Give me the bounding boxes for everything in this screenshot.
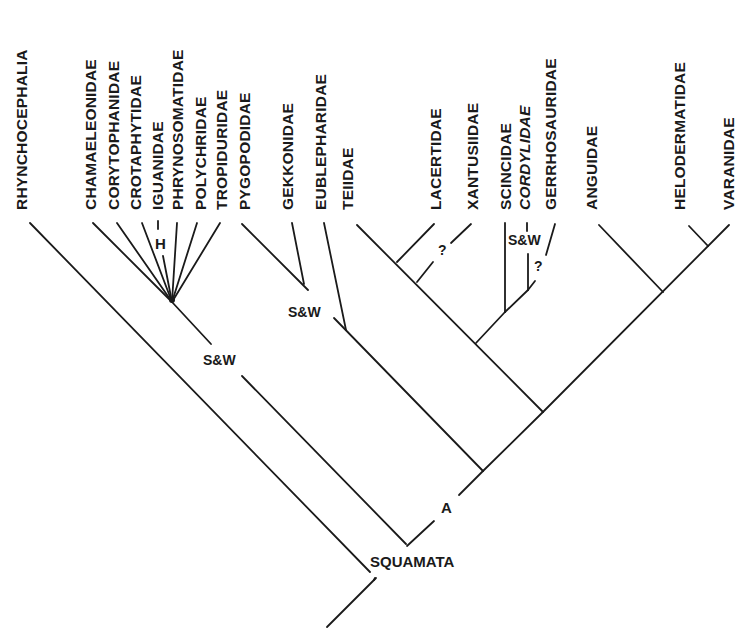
taxon-anguidae: ANGUIDAE bbox=[584, 126, 600, 210]
root-stem bbox=[327, 578, 376, 627]
branch-iguania-upper bbox=[172, 302, 211, 344]
taxon-phrynosomatidae: PHRYNOSOMATIDAE bbox=[170, 49, 186, 210]
annotation-sw-iguania: S&W bbox=[203, 353, 236, 367]
annotation-iguanidae-h: H bbox=[155, 236, 166, 251]
taxon-gerrhosauridae: GERRHOSAURIDAE bbox=[543, 58, 559, 210]
taxon-iguanidae: IGUANIDAE bbox=[150, 121, 166, 210]
taxon-helodermatidae: HELODERMATIDAE bbox=[672, 62, 688, 210]
taxon-polychridae: POLYCHRIDAE bbox=[193, 96, 209, 210]
taxon-lacertidae: LACERTIDAE bbox=[428, 108, 444, 210]
iguania-polytomy-node bbox=[169, 297, 175, 303]
taxon-varanidae: VARANIDAE bbox=[721, 117, 737, 210]
taxon-chamaeleonidae: CHAMAELEONIDAE bbox=[83, 59, 99, 210]
annotation-sw-scincomorpha: S&W bbox=[508, 233, 541, 247]
branch-xantusiidae-upper bbox=[451, 224, 471, 243]
branch-xantusiidae-lower bbox=[417, 262, 433, 282]
taxon-eublepharidae: EUBLEPHARIDAE bbox=[313, 74, 329, 210]
branch-gekkota-stem bbox=[334, 318, 483, 471]
branch-gerrhosauridae-upper bbox=[546, 224, 555, 255]
taxon-xantusiidae: XANTUSIIDAE bbox=[465, 103, 481, 210]
branch-scincomorph-stem bbox=[476, 312, 505, 343]
branch-eublepharidae bbox=[324, 223, 346, 330]
branch-iguania-lower bbox=[242, 376, 406, 544]
taxon-teiidae: TEIIDAE bbox=[340, 147, 356, 210]
taxon-crotaphytidae: CROTAPHYTIDAE bbox=[128, 75, 144, 210]
node-label-a: A bbox=[441, 500, 452, 515]
branch-lacertidae bbox=[397, 224, 434, 262]
branch-scleroglossa-to-autarchoglossa bbox=[483, 412, 543, 471]
taxon-corytophanidae: CORYTOPHANIDAE bbox=[106, 61, 122, 210]
annotation-question-gerrhosauridae: ? bbox=[534, 259, 543, 273]
branch-anguidae bbox=[599, 225, 663, 292]
branch-a-to-scleroglossa bbox=[459, 471, 483, 495]
branch-tropiduridae bbox=[172, 223, 220, 302]
branch-gerrhosauridae-lower bbox=[528, 281, 535, 290]
taxon-rhynchocephalia: RHYNCHOCEPHALIA bbox=[14, 49, 30, 210]
taxon-gekkonidae: GEKKONIDAE bbox=[280, 103, 296, 210]
branch-anguimorpha bbox=[543, 225, 729, 412]
taxon-tropiduridae: TROPIDURIDAE bbox=[214, 90, 230, 210]
branch-squamata-to-a-lower bbox=[407, 521, 434, 546]
branch-helodermatidae bbox=[689, 226, 708, 246]
taxon-pygopodidae: PYGOPODIDAE bbox=[237, 92, 253, 210]
taxon-cordylidae: CORDYLIDAE bbox=[517, 106, 533, 210]
taxon-scincidae: SCINCIDAE bbox=[498, 123, 514, 210]
branch-teiidae bbox=[357, 225, 543, 412]
branch-squamata-stem bbox=[374, 578, 375, 580]
node-label-squamata: SQUAMATA bbox=[370, 554, 454, 569]
branch-rhynchocephalia bbox=[30, 223, 370, 572]
branch-cordylid-node bbox=[505, 290, 528, 312]
annotation-question-xantusiidae: ? bbox=[438, 243, 447, 257]
annotation-sw-gekkota: S&W bbox=[288, 305, 321, 319]
